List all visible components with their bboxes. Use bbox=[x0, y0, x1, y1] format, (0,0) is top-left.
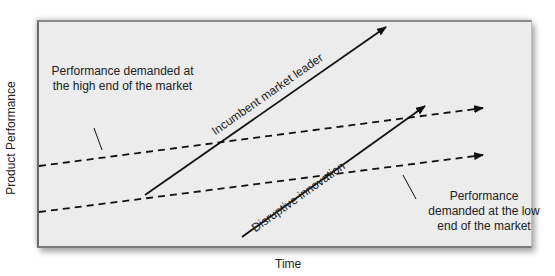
low-end-annotation: Performance demanded at the low end of t… bbox=[425, 189, 543, 234]
low-end-leader-line bbox=[403, 175, 416, 199]
diagram-lines bbox=[0, 0, 555, 276]
high-end-demand-line bbox=[39, 108, 483, 166]
high-end-annotation: Performance demanded at the high end of … bbox=[50, 64, 195, 94]
y-axis-label: Product Performance bbox=[4, 81, 18, 194]
x-axis-label: Time bbox=[275, 257, 301, 271]
low-end-demand-line bbox=[39, 155, 483, 212]
high-end-leader-line bbox=[94, 128, 102, 150]
incumbent-leader-line bbox=[145, 27, 386, 195]
